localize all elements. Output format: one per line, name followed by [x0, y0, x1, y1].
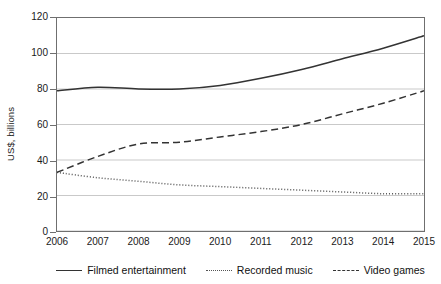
legend-line-dotted-icon [206, 266, 232, 274]
x-tick-label: 2015 [404, 236, 441, 247]
legend-item-filmed-entertainment: Filmed entertainment [56, 264, 186, 276]
x-tick-label: 2006 [37, 236, 77, 247]
legend-label: Recorded music [237, 264, 313, 276]
x-tick-label: 2008 [119, 236, 159, 247]
x-tick-label: 2014 [363, 236, 403, 247]
x-tick-label: 2011 [241, 236, 281, 247]
y-tick-label: 60 [18, 120, 48, 130]
y-tick-label: 20 [18, 192, 48, 202]
x-tick-label: 2013 [322, 236, 362, 247]
chart-legend: Filmed entertainment Recorded music Vide… [56, 261, 425, 279]
x-tick-label: 2012 [282, 236, 322, 247]
y-tick-label: 80 [18, 84, 48, 94]
legend-label: Video games [364, 264, 425, 276]
x-tick-label: 2007 [78, 236, 118, 247]
y-tick-label: 100 [18, 48, 48, 58]
x-tick-label: 2009 [159, 236, 199, 247]
plot-svg [57, 18, 424, 231]
plot-area [56, 17, 425, 232]
legend-label: Filmed entertainment [87, 264, 186, 276]
legend-line-solid-icon [56, 266, 82, 274]
gridlines [57, 54, 424, 232]
line-chart: US$, billions 120 100 80 60 40 20 0 2006… [0, 0, 441, 284]
x-tick-label: 2010 [200, 236, 240, 247]
legend-line-dashed-icon [333, 266, 359, 274]
y-tick-label: 120 [18, 12, 48, 22]
y-tick-label: 40 [18, 156, 48, 166]
legend-item-video-games: Video games [333, 264, 425, 276]
series-line [57, 36, 424, 91]
series-lines [57, 36, 424, 194]
legend-item-recorded-music: Recorded music [206, 264, 313, 276]
series-line [57, 172, 424, 193]
y-tick-mark [50, 232, 56, 233]
y-axis-label: US$, billions [0, 84, 20, 184]
